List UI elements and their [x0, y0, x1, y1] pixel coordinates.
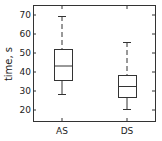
- y-tick-label: 60: [20, 29, 32, 39]
- y-axis-label: time, s: [3, 47, 14, 81]
- box-plot-chart: 20 30 40 50 60 70 time, s AS DS: [0, 0, 162, 141]
- y-tick-label: 40: [20, 67, 32, 77]
- iqr-box: [55, 50, 73, 81]
- y-tick-label: 30: [20, 86, 32, 96]
- plot-frame: [34, 6, 156, 122]
- x-tick-label-ds: DS: [121, 126, 134, 136]
- y-tick-label: 20: [20, 105, 32, 115]
- box-ds: [119, 42, 137, 110]
- box-as: [55, 16, 73, 95]
- x-tick-label-as: AS: [56, 126, 68, 136]
- y-ticks: [33, 6, 155, 121]
- y-tick-labels: 20 30 40 50 60 70: [20, 10, 32, 115]
- y-tick-label: 50: [20, 48, 32, 58]
- y-tick-label: 70: [20, 10, 32, 20]
